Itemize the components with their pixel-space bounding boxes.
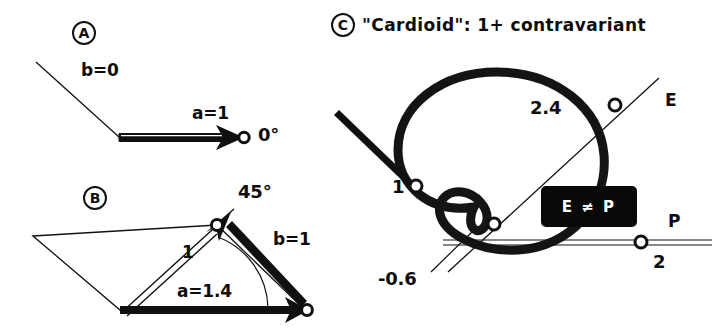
panel-c-label-one: 1: [392, 176, 404, 197]
panel-c-label-2point4: 2.4: [530, 97, 561, 118]
panel-b-label-angle: 45°: [238, 181, 271, 202]
panel-b-corner-node: [302, 305, 313, 316]
panel-tag-a: A: [72, 21, 96, 45]
panel-c-label-two: 2: [653, 251, 665, 272]
figure-canvas: [0, 0, 717, 335]
panel-a-label-b: b=0: [81, 60, 119, 80]
panel-b-vector-a-shaft: [120, 306, 292, 314]
panel-b-resultant-line-inner: [127, 234, 217, 316]
panel-b-label-b: b=1: [273, 229, 311, 249]
panel-c-node-e: [609, 99, 621, 111]
panel-c-badge-e-not-equal-p: E ≠ P: [541, 186, 637, 227]
panel-c-label-e-axis: E: [665, 90, 676, 110]
panel-a-label-angle: 0°: [258, 124, 279, 145]
badge-text: E ≠ P: [562, 198, 616, 216]
panel-b-label-one: 1: [182, 242, 194, 262]
panel-c-node-two: [635, 236, 647, 248]
panel-c-title: "Cardioid": 1+ contravariant: [362, 15, 646, 35]
panel-a-vector-a-shaft: [119, 134, 228, 142]
panel-b-label-a: a=1.4: [177, 281, 232, 301]
panel-b-graphic: [33, 209, 312, 323]
panel-c-label-p-axis: P: [668, 211, 680, 231]
panel-tag-b: B: [83, 186, 107, 210]
panel-c-node-inner-loop: [488, 218, 500, 230]
panel-c-graphic: [334, 72, 712, 272]
panel-b-apex-node: [211, 219, 222, 230]
panel-a-label-a: a=1: [192, 103, 229, 123]
panel-tag-c: C: [331, 13, 355, 37]
panel-c-node-one: [410, 180, 422, 192]
panel-c-label-minus-zero-six: -0.6: [378, 268, 417, 289]
panel-a-tip-node: [239, 132, 249, 142]
